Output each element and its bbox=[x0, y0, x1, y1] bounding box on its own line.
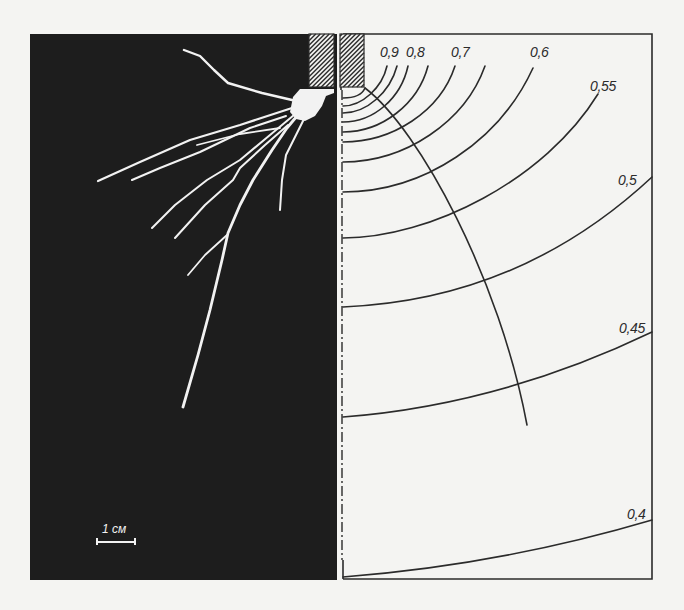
isoline-label-0-6: 0,6 bbox=[530, 44, 549, 60]
isoline-0-5 bbox=[343, 177, 652, 307]
isoline-innermost bbox=[343, 88, 365, 98]
hatched-source-box-left bbox=[309, 34, 334, 87]
isoline-label-0-55: 0,55 bbox=[590, 78, 617, 94]
isoline-0-45 bbox=[343, 332, 652, 417]
root-photo-panel: 1 см bbox=[30, 34, 337, 580]
isoline-label-0-45: 0,45 bbox=[619, 320, 646, 336]
hatched-source-box-right bbox=[340, 34, 364, 87]
isoline-label-0-9: 0,9 bbox=[380, 44, 399, 60]
scale-bar-label: 1 см bbox=[102, 522, 126, 536]
isoline-label-0-8: 0,8 bbox=[406, 44, 425, 60]
isoline-0-55 bbox=[343, 94, 598, 238]
gradient-trajectory-line bbox=[365, 88, 527, 425]
isoline-panel: 0,9 0,8 0,7 0,6 0,55 0,5 0,45 0,4 bbox=[340, 34, 652, 579]
root-and-isoline-figure: 1 см bbox=[0, 0, 684, 610]
frame-border bbox=[343, 34, 652, 579]
isolines bbox=[343, 66, 652, 577]
isoline-label-0-5: 0,5 bbox=[618, 172, 637, 188]
isoline-0-4 bbox=[343, 520, 652, 577]
isoline-label-0-4: 0,4 bbox=[627, 506, 646, 522]
isoline-label-0-7: 0,7 bbox=[451, 44, 471, 60]
root-panel-background bbox=[30, 34, 337, 580]
